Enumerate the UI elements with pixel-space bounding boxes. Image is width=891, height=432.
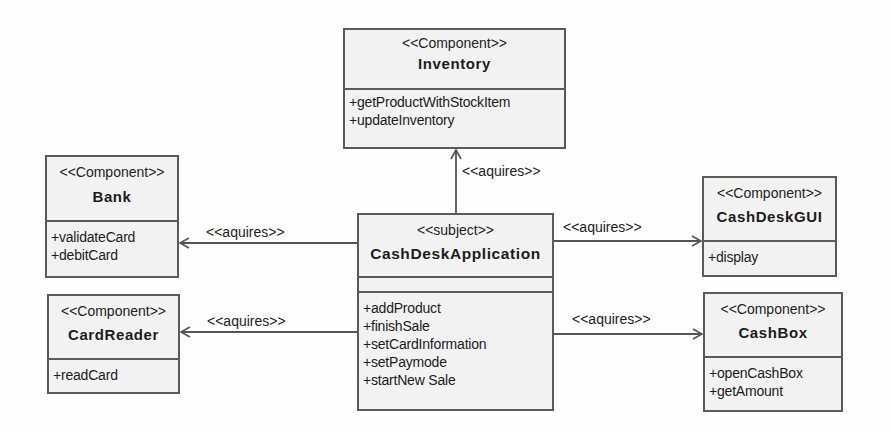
operation: +openCashBox xyxy=(709,364,837,382)
operation: +updateInventory xyxy=(349,111,560,129)
component-cardreader[interactable]: <<Component>> CardReader +readCard xyxy=(47,294,180,394)
component-name: CardReader xyxy=(49,321,178,346)
stereotype-label: <<Component>> xyxy=(345,30,564,53)
stereotype-label: <<Component>> xyxy=(704,178,835,203)
stereotype-label: <<Component>> xyxy=(49,296,178,321)
operation: +readCard xyxy=(53,366,174,384)
stereotype-label: <<subject>> xyxy=(359,215,552,240)
component-name: Inventory xyxy=(345,53,564,75)
operation: +finishSale xyxy=(363,317,548,335)
attributes-compartment xyxy=(359,276,552,291)
relation-label-cashbox: <<aquires>> xyxy=(572,311,651,327)
component-bank[interactable]: <<Component>> Bank +validateCard +debitC… xyxy=(45,155,179,278)
operation: +getAmount xyxy=(709,382,837,400)
operation: +addProduct xyxy=(363,299,548,317)
component-name: CashBox xyxy=(705,319,841,344)
stereotype-label: <<Component>> xyxy=(47,157,177,182)
relation-label-inventory: <<aquires>> xyxy=(462,163,541,179)
operation: +getProductWithStockItem xyxy=(349,93,560,111)
operation: +debitCard xyxy=(51,246,173,264)
component-inventory[interactable]: <<Component>> Inventory +getProductWithS… xyxy=(343,28,566,149)
relation-label-cashdeskgui: <<aquires>> xyxy=(563,219,642,235)
subject-cashdeskapplication[interactable]: <<subject>> CashDeskApplication +addProd… xyxy=(357,213,554,411)
component-name: CashDeskApplication xyxy=(359,240,552,265)
operation: +setCardInformation xyxy=(363,335,548,353)
component-cashdeskgui[interactable]: <<Component>> CashDeskGUI +display xyxy=(702,176,837,277)
relation-label-bank: <<aquires>> xyxy=(206,224,285,240)
stereotype-label: <<Component>> xyxy=(705,294,841,319)
component-name: Bank xyxy=(47,182,177,208)
component-cashbox[interactable]: <<Component>> CashBox +openCashBox +getA… xyxy=(703,292,843,412)
operation: +display xyxy=(708,248,831,266)
relation-label-cardreader: <<aquires>> xyxy=(207,313,286,329)
operation: +validateCard xyxy=(51,228,173,246)
operation: +setPaymode xyxy=(363,353,548,371)
operation: +startNew Sale xyxy=(363,371,548,389)
component-name: CashDeskGUI xyxy=(704,203,835,228)
